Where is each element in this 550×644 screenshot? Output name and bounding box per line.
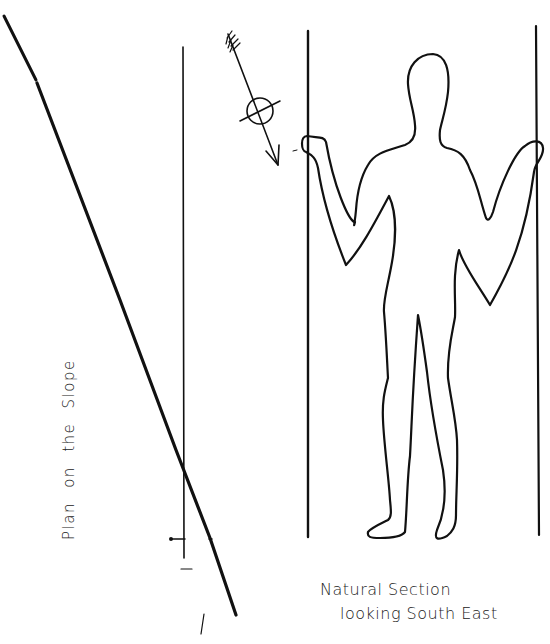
compass-arrow-icon: [226, 31, 280, 165]
drawing-canvas: [0, 0, 550, 644]
human-figure-outline: [302, 54, 543, 539]
left-staff: [293, 31, 308, 537]
right-staff: [536, 26, 539, 535]
slope-line: [4, 16, 236, 634]
caption-line-1: Natural Section: [320, 580, 451, 599]
caption-line-2: looking South East: [340, 604, 498, 623]
slope-label: Plan on the Slope: [60, 359, 78, 540]
